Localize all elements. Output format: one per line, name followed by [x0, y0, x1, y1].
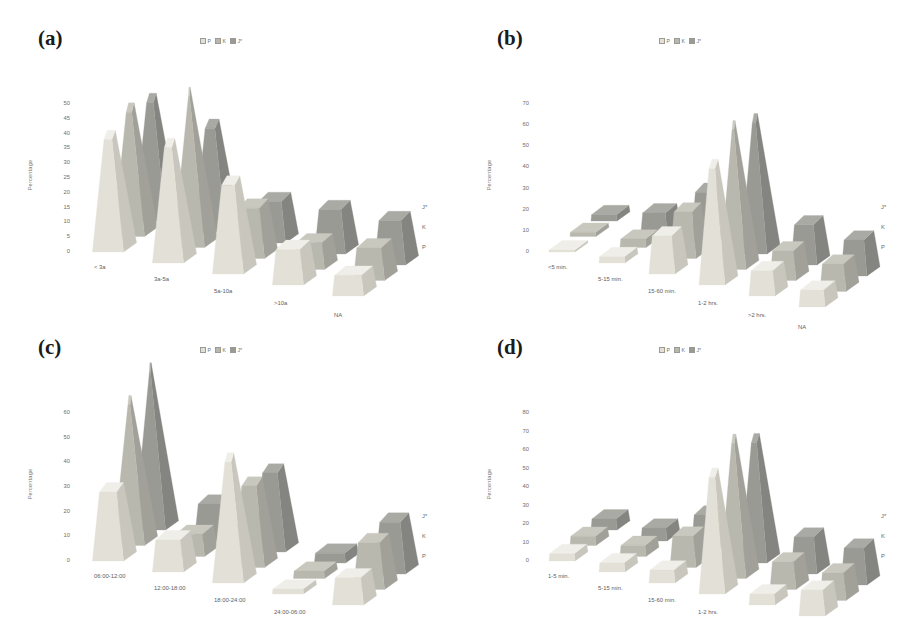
bar-3d[interactable] [293, 562, 337, 579]
y-axis-tick-label: 35 [38, 144, 70, 150]
bar-3d[interactable] [770, 552, 809, 589]
bar-3d[interactable] [272, 240, 316, 285]
bar-3d[interactable] [332, 569, 376, 605]
y-axis-tick-label: 50 [38, 434, 70, 440]
y-axis-tick-label: 0 [497, 248, 529, 254]
bar-front-face [649, 236, 675, 274]
x-axis-tick-label: 12:00-18:00 [154, 585, 185, 591]
depth-axis-label: J* [881, 204, 886, 210]
bar-front-face [599, 563, 625, 572]
x-axis-tick-label: 1-5 min. [548, 573, 569, 579]
panel-c: (c)PKJ*0102030405060Percentage06:00-12:0… [0, 309, 459, 618]
bar-front-face [620, 239, 646, 247]
bar-front-face [272, 589, 303, 594]
depth-axis-label: J* [881, 513, 886, 519]
bar-3d[interactable] [649, 561, 688, 583]
bar-3d[interactable] [152, 531, 196, 572]
bar-3d[interactable] [599, 247, 638, 263]
bar-3d[interactable] [570, 223, 609, 237]
bar-front-face [591, 215, 617, 221]
y-axis-tick-label: 0 [38, 557, 70, 563]
y-axis-tick-label: 0 [497, 557, 529, 563]
y-axis-tick-label: 30 [497, 185, 529, 191]
y-axis-tick-label: 40 [497, 163, 529, 169]
bar-front-face [749, 271, 775, 296]
y-axis-tick-label: 80 [497, 409, 529, 415]
depth-axis-label: J* [422, 513, 427, 519]
chart-3d-surface [0, 0, 459, 309]
y-axis-tick-label: 20 [38, 508, 70, 514]
y-axis-tick-label: 5 [38, 233, 70, 239]
depth-axis-label: K [422, 533, 426, 539]
bar-3d[interactable] [332, 266, 376, 296]
y-axis-tick-label: 40 [38, 458, 70, 464]
y-axis-tick-label: 20 [497, 206, 529, 212]
bar-front-face [293, 571, 324, 578]
panel-d: (d)PKJ*01020304050607080Percentage1-5 mi… [459, 309, 919, 618]
bar-3d[interactable] [749, 261, 788, 296]
y-axis-tick-label: 0 [38, 248, 70, 254]
y-axis-title: Percentage [27, 145, 33, 205]
x-axis-tick-label: 06:00-12:00 [94, 573, 125, 579]
x-axis-tick-label: < 3a [94, 264, 106, 270]
depth-axis-label: K [422, 224, 426, 230]
y-axis-tick-label: 45 [38, 115, 70, 121]
y-axis-tick-label: 10 [497, 227, 529, 233]
x-axis-tick-label: 24:00-06:00 [274, 609, 305, 615]
bar-3d[interactable] [272, 580, 316, 594]
bar-front-face [272, 249, 303, 285]
bar-front-face [599, 257, 625, 263]
depth-axis-label: P [422, 244, 426, 250]
y-axis-tick-label: 30 [497, 502, 529, 508]
y-axis-tick-label: 40 [38, 130, 70, 136]
bar-front-face [799, 590, 825, 616]
bar-3d[interactable] [649, 227, 688, 274]
bar-3d[interactable] [549, 241, 588, 252]
y-axis-tick-label: 20 [497, 520, 529, 526]
x-axis-tick-label: <5 min. [548, 264, 567, 270]
y-axis-tick-label: 25 [38, 174, 70, 180]
y-axis-tick-label: 60 [38, 409, 70, 415]
y-axis-tick-label: 50 [38, 100, 70, 106]
bar-front-face [570, 232, 596, 236]
bar-front-face [749, 594, 775, 605]
bar-3d[interactable] [599, 553, 638, 572]
x-axis-tick-label: 3a-5a [154, 276, 169, 282]
y-axis-tick-label: 30 [38, 483, 70, 489]
x-axis-tick-label: 15-60 min. [648, 597, 676, 603]
depth-axis-label: K [881, 224, 885, 230]
bar-front-face [549, 250, 575, 252]
bar-3d[interactable] [749, 585, 788, 605]
bar-3d[interactable] [314, 544, 358, 563]
x-axis-tick-label: >10a [274, 300, 287, 306]
y-axis-tick-label: 50 [497, 142, 529, 148]
x-axis-tick-label: 18:00-24:00 [214, 597, 245, 603]
bar-front-face [332, 578, 363, 605]
y-axis-tick-label: 10 [38, 532, 70, 538]
bar-front-face [799, 290, 825, 307]
y-axis-tick-label: 70 [497, 428, 529, 434]
y-axis-tick-label: 70 [497, 100, 529, 106]
x-axis-tick-label: 1-2 hrs. [698, 300, 718, 306]
bar-3d[interactable] [799, 581, 838, 616]
x-axis-tick-label: 5a-10a [214, 288, 232, 294]
bar-3d[interactable] [591, 205, 630, 221]
bar-3d[interactable] [799, 281, 838, 307]
chart-3d-surface [459, 0, 918, 309]
y-axis-tick-label: 10 [497, 539, 529, 545]
y-axis-tick-label: 60 [497, 446, 529, 452]
y-axis-tick-label: 60 [497, 121, 529, 127]
y-axis-title: Percentage [486, 145, 492, 205]
bar-3d[interactable] [549, 544, 588, 561]
chart-3d-surface [459, 309, 918, 618]
y-axis-tick-label: 15 [38, 204, 70, 210]
figure-grid: (a)PKJ*05101520253035404550Percentage< 3… [0, 0, 919, 618]
bar-3d[interactable] [570, 527, 609, 546]
x-axis-tick-label: 5-15 min. [598, 585, 623, 591]
y-axis-title: Percentage [486, 454, 492, 514]
depth-axis-label: P [881, 553, 885, 559]
x-axis-tick-label: 15-60 min. [648, 288, 676, 294]
panel-a: (a)PKJ*05101520253035404550Percentage< 3… [0, 0, 459, 309]
x-axis-tick-label: 1-2 hrs. [698, 609, 718, 615]
depth-axis-label: J* [422, 204, 427, 210]
